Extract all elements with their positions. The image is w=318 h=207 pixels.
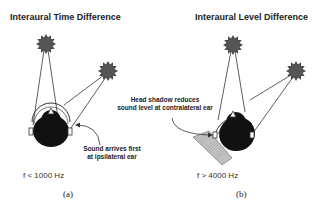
sound-source-icon — [223, 35, 243, 55]
panel-a-annotation: Sound arrives first at ipsilateral ear — [80, 145, 144, 161]
sound-source-icon — [98, 61, 118, 81]
panel-a-caption: (a) — [63, 189, 73, 199]
panel-b-frequency: f > 4000 Hz — [197, 171, 238, 180]
panel-b-annotation: Head shadow reduces sound level at contr… — [105, 96, 225, 112]
annotation-line: Head shadow reduces — [105, 96, 225, 104]
annotation-line: at ipsilateral ear — [80, 153, 144, 161]
annotation-line: sound level at contralateral ear — [105, 104, 225, 112]
panel-b-caption: (b) — [236, 189, 247, 199]
annotation-line: Sound arrives first — [80, 145, 144, 153]
panel-b-title: Interaural Level Difference — [195, 12, 308, 22]
panel-a-frequency: f < 1000 Hz — [23, 171, 64, 180]
sound-source-icon — [36, 34, 56, 54]
sound-source-icon — [286, 61, 306, 81]
panel-a-diagram — [29, 34, 118, 147]
panel-a-title: Interaural Time Difference — [10, 12, 121, 22]
